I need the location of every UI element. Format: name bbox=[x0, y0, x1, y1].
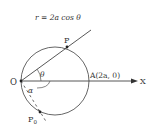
point-p0-dot bbox=[39, 111, 42, 114]
ray-op bbox=[21, 30, 91, 81]
point-p-dot bbox=[66, 46, 69, 49]
point-a-label: A(2a, 0) bbox=[89, 71, 120, 80]
point-p-label: P bbox=[64, 36, 70, 45]
point-o-dot bbox=[20, 80, 23, 83]
alpha-label: α bbox=[28, 86, 33, 95]
axis-arrowhead-icon bbox=[131, 79, 138, 84]
alpha-arc bbox=[37, 81, 50, 88]
theta-label: θ bbox=[40, 70, 45, 79]
axis-x-label: X bbox=[140, 77, 146, 86]
point-p0-label: P0 bbox=[28, 115, 37, 125]
polar-circle-diagram: r = 2a cos θ P O A(2a, 0) X θ α P0 bbox=[0, 0, 156, 125]
origin-label: O bbox=[10, 77, 17, 87]
equation-label: r = 2a cos θ bbox=[35, 13, 81, 22]
point-p0-subscript: 0 bbox=[33, 119, 37, 125]
